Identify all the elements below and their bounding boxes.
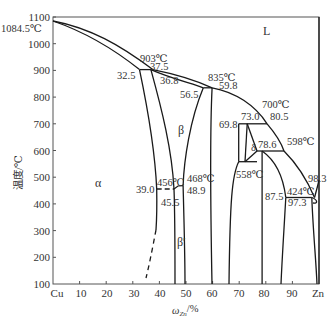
label-80-5: 80.5: [270, 111, 288, 122]
label-98-3: 98.3: [308, 173, 326, 184]
x-tick-70: 70: [234, 287, 246, 299]
label-56-5: 56.5: [180, 89, 198, 100]
label-87-5: 87.5: [265, 191, 283, 202]
y-tick-200: 200: [34, 251, 51, 263]
x-tick-60: 60: [207, 287, 219, 299]
phase-beta: β: [178, 123, 184, 137]
x-tick-80: 80: [259, 287, 271, 299]
x-tick-40: 40: [155, 287, 167, 299]
x-tick-10: 10: [76, 287, 88, 299]
y-tick-300: 300: [34, 225, 51, 237]
label-456: 456℃: [157, 177, 185, 188]
x-tick-zn: Zn: [312, 287, 325, 299]
phase-liquid: L: [263, 24, 270, 38]
x-tick-50: 50: [181, 287, 193, 299]
phase-alpha: α: [95, 176, 102, 190]
x-tick-90: 90: [287, 287, 299, 299]
label-69-8: 69.8: [219, 119, 237, 130]
cu-melting-point-label: 1084.5℃: [1, 23, 42, 34]
x-tick-20: 20: [102, 287, 114, 299]
label-59-8: 59.8: [219, 80, 237, 91]
y-tick-100: 100: [34, 278, 51, 290]
label-700: 700℃: [262, 99, 290, 110]
label-45-5: 45.5: [161, 197, 179, 208]
y-tick-1000: 1000: [28, 38, 51, 50]
label-37-5: 37.5: [150, 61, 168, 72]
x-tick-30: 30: [129, 287, 141, 299]
label-558: 558℃: [236, 169, 264, 180]
label-32-5: 32.5: [117, 70, 135, 81]
label-73-0: 73.0: [241, 111, 259, 122]
label-36-8: 36.8: [160, 75, 178, 86]
x-tick-cu: Cu: [51, 287, 64, 299]
y-tick-1100: 1100: [28, 11, 50, 23]
y-tick-500: 500: [34, 171, 51, 183]
y-axis-label: 温度/℃: [12, 155, 24, 190]
label-48-9: 48.9: [187, 185, 205, 196]
x-axis-label: ωZn/%: [172, 303, 199, 318]
phase-diagram: 1100 1000 900 800 700 600 500 400 300 20…: [0, 0, 335, 322]
label-468: 468℃: [187, 173, 215, 184]
label-424: 424℃: [287, 186, 315, 197]
y-tick-600: 600: [34, 145, 51, 157]
y-tick-900: 900: [34, 64, 51, 76]
label-78-6: 78.6: [258, 139, 276, 150]
label-39-0: 39.0: [136, 184, 154, 195]
label-97-3: 97.3: [288, 197, 306, 208]
liquidus-cu-903: [53, 21, 153, 70]
label-598: 598℃: [287, 136, 315, 147]
y-tick-800: 800: [34, 91, 51, 103]
phase-delta: δ: [251, 142, 256, 153]
phase-boundaries: [53, 17, 319, 284]
phase-beta-prime: β′: [177, 235, 186, 249]
y-tick-700: 700: [34, 118, 51, 130]
y-tick-400: 400: [34, 198, 51, 210]
